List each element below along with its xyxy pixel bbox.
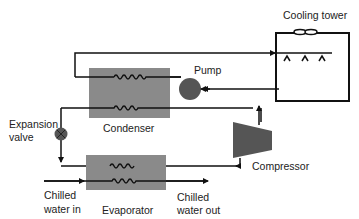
condenser-label: Condenser bbox=[103, 122, 154, 134]
pump bbox=[170, 77, 210, 100]
chilled-water-in-label-1: Chilled bbox=[44, 189, 76, 201]
condenser bbox=[61, 68, 253, 118]
chiller-diagram bbox=[0, 0, 359, 219]
expansion-valve-label-1: Expansion bbox=[9, 118, 58, 130]
expansion-valve-label-2: valve bbox=[9, 131, 34, 143]
evaporator-label: Evaporator bbox=[102, 204, 153, 216]
fan-icon bbox=[294, 30, 317, 35]
chilled-water-out-label-2: water out bbox=[177, 204, 220, 216]
cooling-tower bbox=[276, 30, 349, 102]
chilled-water-in-label-2: water in bbox=[44, 203, 81, 215]
evaporator bbox=[44, 155, 208, 190]
compressor bbox=[233, 122, 272, 158]
compressor-label: Compressor bbox=[252, 160, 309, 172]
chilled-water-out-label-1: Chilled bbox=[177, 191, 209, 203]
pump-label: Pump bbox=[194, 64, 221, 76]
cooling-tower-label: Cooling tower bbox=[283, 9, 347, 21]
